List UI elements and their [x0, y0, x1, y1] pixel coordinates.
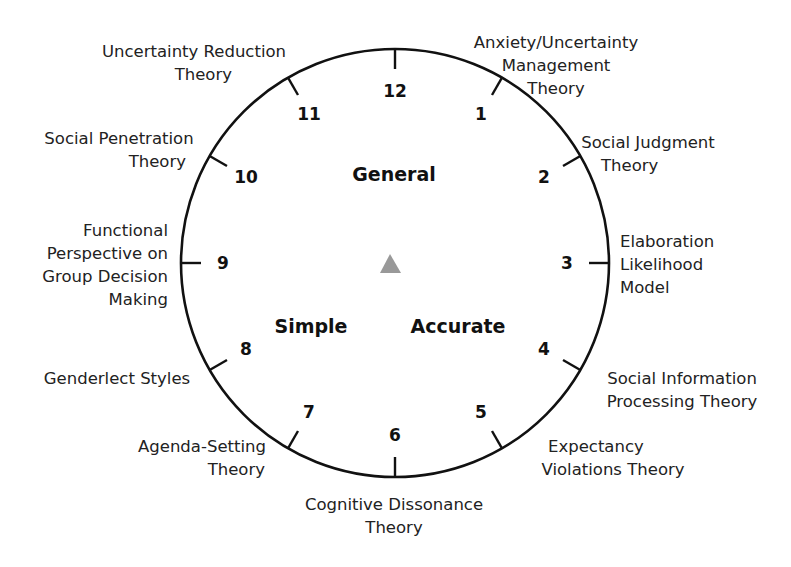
theory-label-line: Expectancy: [548, 437, 644, 456]
theory-label-line: Anxiety/Uncertainty: [474, 33, 639, 52]
theory-label-line: Theory: [174, 65, 233, 84]
theory-label-line: Group Decision: [42, 267, 168, 286]
theory-label-4: Social InformationProcessing Theory: [607, 369, 758, 411]
theory-label-line: Violations Theory: [541, 460, 684, 479]
theory-label-line: Theory: [128, 152, 187, 171]
theory-label-line: Social Information: [607, 369, 757, 388]
tick-mark-8: [210, 360, 227, 370]
theory-label-line: Theory: [364, 518, 423, 537]
clock-number-4: 4: [538, 339, 550, 359]
center-triangle-icon: [380, 254, 401, 273]
tick-mark-10: [210, 156, 227, 166]
theory-label-line: Agenda-Setting: [138, 437, 266, 456]
theory-label-line: Likelihood: [620, 255, 703, 274]
clock-number-6: 6: [389, 425, 401, 445]
clock-number-7: 7: [303, 402, 315, 422]
clock-number-10: 10: [234, 167, 258, 187]
theory-label-1: Anxiety/UncertaintyManagementTheory: [474, 33, 639, 98]
tick-mark-2: [563, 156, 580, 166]
theory-label-9: FunctionalPerspective onGroup DecisionMa…: [42, 221, 168, 309]
theory-label-2: Social JudgmentTheory: [581, 133, 715, 175]
theory-label-line: Theory: [207, 460, 266, 479]
zone-label-general: General: [352, 163, 436, 185]
theory-label-5: ExpectancyViolations Theory: [541, 437, 684, 479]
theory-label-line: Uncertainty Reduction: [102, 42, 286, 61]
tick-mark-1: [492, 78, 502, 95]
theory-label-line: Social Judgment: [581, 133, 715, 152]
theory-label-line: Theory: [526, 79, 585, 98]
clock-number-1: 1: [475, 104, 487, 124]
zone-label-accurate: Accurate: [411, 315, 506, 337]
clock-number-2: 2: [538, 167, 550, 187]
theory-label-8: Genderlect Styles: [44, 369, 190, 388]
theory-label-line: Genderlect Styles: [44, 369, 190, 388]
theory-clock-diagram: General Simple Accurate 121234567891011 …: [0, 0, 791, 567]
clock-number-11: 11: [297, 104, 321, 124]
theory-label-line: Management: [502, 56, 611, 75]
theory-label-line: Cognitive Dissonance: [305, 495, 483, 514]
tick-mark-4: [563, 360, 580, 370]
theory-label-6: Cognitive DissonanceTheory: [305, 495, 483, 537]
zone-label-simple: Simple: [275, 315, 348, 337]
clock-number-12: 12: [383, 81, 407, 101]
clock-number-9: 9: [217, 253, 229, 273]
clock-number-5: 5: [475, 402, 487, 422]
tick-mark-5: [492, 431, 502, 448]
theory-label-line: Perspective on: [47, 244, 168, 263]
theory-label-7: Agenda-SettingTheory: [138, 437, 266, 479]
theory-label-line: Making: [109, 290, 168, 309]
clock-number-3: 3: [561, 253, 573, 273]
tick-mark-11: [288, 78, 298, 95]
theory-label-line: Social Penetration: [44, 129, 193, 148]
tick-mark-7: [288, 431, 298, 448]
theory-label-11: Uncertainty ReductionTheory: [102, 42, 286, 84]
theory-label-line: Processing Theory: [607, 392, 758, 411]
clock-number-8: 8: [240, 339, 252, 359]
theory-label-line: Model: [620, 278, 670, 297]
theory-label-line: Elaboration: [620, 232, 714, 251]
theory-label-line: Functional: [83, 221, 168, 240]
theory-label-line: Theory: [600, 156, 659, 175]
theory-label-3: ElaborationLikelihoodModel: [620, 232, 714, 297]
theory-label-10: Social PenetrationTheory: [44, 129, 193, 171]
